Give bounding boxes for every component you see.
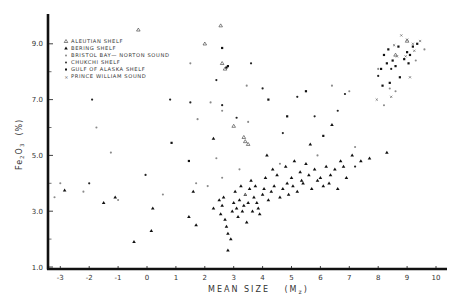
filled-square-marker (416, 43, 418, 45)
open-triangle-icon (64, 40, 68, 43)
dot-marker (250, 62, 252, 64)
filled-triangle-marker (281, 187, 285, 190)
filled-triangle-marker (251, 209, 255, 212)
filled-triangle-marker (329, 173, 333, 176)
filled-triangle-marker (275, 173, 279, 176)
x-star-marker (412, 43, 414, 45)
x-star-marker (390, 96, 392, 98)
filled-triangle-marker (187, 215, 191, 218)
small-star-marker (82, 191, 84, 193)
filled-triangle-marker (241, 209, 245, 212)
y-tick-label: 3.0 (32, 208, 43, 216)
dot-marker (144, 174, 146, 176)
x-tick-label: 2 (203, 274, 207, 282)
filled-triangle-marker (350, 154, 354, 157)
filled-square-marker (286, 115, 288, 117)
scatter-chart: -3-2-1012345678910 1.03.05.07.09.0 MEAN … (0, 0, 459, 307)
filled-triangle-marker (225, 225, 229, 228)
filled-triangle-marker (233, 190, 237, 193)
x-tick-label: 4 (260, 274, 265, 282)
small-star-marker (221, 110, 223, 112)
x-tick-label: 10 (432, 274, 441, 282)
filled-triangle-marker (229, 237, 233, 240)
dot-marker (189, 101, 191, 103)
filled-square-marker (386, 62, 388, 64)
x-star-marker (393, 44, 395, 46)
filled-square-marker (221, 47, 223, 49)
dot-marker (344, 93, 346, 95)
small-star-marker (383, 104, 385, 106)
filled-triangle-marker (238, 198, 242, 201)
small-star-marker (207, 185, 209, 187)
filled-square-marker (403, 58, 405, 60)
filled-triangle-marker (269, 190, 273, 193)
filled-triangle-icon (64, 47, 68, 50)
filled-square-marker (392, 59, 394, 61)
y-tick-label: 7.0 (32, 96, 43, 104)
dot-marker (262, 87, 264, 89)
filled-triangle-marker (261, 193, 265, 196)
filled-triangle-marker (63, 188, 67, 191)
small-star-marker (195, 182, 197, 184)
filled-triangle-marker (262, 187, 266, 190)
x-star-marker (400, 34, 402, 36)
dot-icon (65, 62, 67, 64)
legend-label: ALEUTIAN SHELF (71, 38, 123, 44)
filled-triangle-marker (235, 207, 239, 210)
filled-triangle-marker (258, 212, 262, 215)
filled-triangle-marker (333, 168, 337, 171)
x-tick-label: 3 (231, 274, 235, 282)
small-star-marker (316, 154, 318, 156)
legend-label: CHUKCHI SHELF (71, 59, 120, 65)
filled-triangle-marker (264, 176, 268, 179)
small-star-marker (53, 196, 55, 198)
y-axis-title-o: O (15, 147, 24, 154)
filled-triangle-marker (301, 182, 305, 185)
filled-square-marker (322, 135, 324, 137)
dot-marker (354, 165, 356, 167)
small-star-marker (389, 87, 391, 89)
filled-triangle-marker (293, 159, 297, 162)
filled-square-marker (188, 160, 190, 162)
filled-triangle-marker (212, 137, 216, 140)
x-tick-label: 8 (376, 274, 380, 282)
filled-triangle-marker (336, 187, 340, 190)
legend-label: GULF OF ALASKA SHELF (71, 66, 145, 72)
filled-triangle-marker (242, 204, 246, 207)
open-triangle-marker (219, 24, 223, 27)
filled-square-marker (412, 45, 414, 47)
filled-triangle-marker (217, 198, 221, 201)
small-star-marker (162, 193, 164, 195)
small-star-marker (221, 177, 223, 179)
filled-square-marker (380, 68, 382, 70)
small-star-marker (215, 157, 217, 159)
filled-triangle-marker (194, 223, 198, 226)
filled-triangle-marker (252, 195, 256, 198)
filled-triangle-marker (232, 201, 236, 204)
small-star-marker (279, 163, 281, 165)
small-star-marker (110, 152, 112, 154)
filled-square-marker (407, 62, 409, 64)
filled-triangle-marker (310, 187, 314, 190)
filled-triangle-marker (385, 151, 389, 154)
small-star-marker (117, 199, 119, 201)
filled-square-marker (394, 65, 396, 67)
x-tick-label: 9 (405, 274, 409, 282)
x-star-marker (413, 50, 415, 52)
legend-item-chukchi: CHUKCHI SHELF (65, 59, 120, 65)
filled-triangle-marker (256, 207, 260, 210)
small-star-marker (377, 68, 379, 70)
y-axis-title-sub2: 3 (19, 143, 25, 148)
filled-triangle-marker (272, 184, 276, 187)
filled-triangle-marker (304, 162, 308, 165)
filled-square-marker (389, 82, 391, 84)
filled-triangle-marker (226, 248, 230, 251)
filled-triangle-marker (284, 165, 288, 168)
dot-marker (390, 68, 392, 70)
filled-triangle-marker (330, 123, 334, 126)
legend-item-aleutian: ALEUTIAN SHELF (64, 38, 123, 44)
filled-square-marker (381, 85, 383, 87)
x-tick-label: -1 (115, 274, 122, 282)
legend-label: BERING SHELF (71, 45, 116, 51)
data-points (53, 24, 425, 252)
